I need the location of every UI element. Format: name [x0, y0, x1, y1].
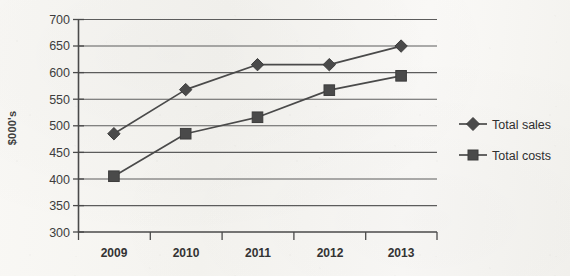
diamond-marker-icon [467, 118, 480, 131]
x-tick-label: 2013 [388, 246, 415, 260]
chart-legend: Total sales Total costs [459, 118, 551, 163]
line-chart: $000's 700 650 600 550 500 450 400 350 3… [0, 0, 570, 276]
y-tick-label: 600 [49, 66, 70, 80]
chart-canvas: $000's 700 650 600 550 500 450 400 350 3… [0, 0, 570, 276]
y-tick-label: 350 [49, 199, 70, 213]
y-axis-title: $000's [6, 111, 18, 145]
legend-label: Total costs [492, 149, 551, 163]
legend-item-total-costs[interactable]: Total costs [459, 149, 551, 163]
y-tick-label: 400 [49, 173, 70, 187]
y-tick-label: 450 [49, 146, 70, 160]
x-tick-label: 2010 [173, 246, 200, 260]
y-tick-label: 550 [49, 93, 70, 107]
y-tick-label: 300 [49, 226, 70, 240]
legend-label: Total sales [492, 118, 551, 132]
x-tick-label: 2012 [317, 246, 344, 260]
series-total-sales [108, 40, 408, 140]
x-tick-label: 2009 [101, 246, 128, 260]
diamond-marker-icon [323, 58, 335, 70]
x-tick-label: 2011 [245, 246, 271, 260]
diamond-marker-icon [108, 128, 120, 140]
y-tick-label: 700 [49, 13, 70, 27]
y-tick-label: 650 [49, 39, 70, 53]
diamond-marker-icon [180, 83, 192, 95]
square-marker-icon [468, 150, 478, 160]
square-marker-icon [252, 112, 263, 123]
square-marker-icon [109, 171, 120, 182]
diamond-marker-icon [395, 40, 407, 52]
square-marker-icon [180, 128, 191, 139]
series-layer [108, 40, 408, 182]
y-tick-label: 500 [49, 119, 70, 133]
x-axis-ticks [79, 232, 438, 240]
legend-item-total-sales[interactable]: Total sales [459, 118, 551, 132]
x-axis-tick-labels: 2009 2010 2011 2012 2013 [101, 246, 415, 260]
y-axis-tick-labels: 700 650 600 550 500 450 400 350 300 [49, 13, 70, 240]
diamond-marker-icon [251, 58, 263, 70]
square-marker-icon [396, 71, 407, 82]
square-marker-icon [324, 85, 335, 96]
